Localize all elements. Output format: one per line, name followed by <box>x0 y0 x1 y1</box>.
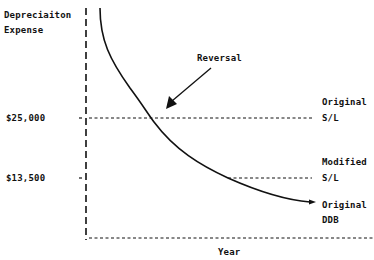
x-axis-label: Year <box>218 246 240 258</box>
original-sl-label-line2: S/L <box>322 112 339 124</box>
y-tick-label-13500: $13,500 <box>6 172 45 184</box>
modified-sl-label-line2: S/L <box>322 172 339 184</box>
original-ddb-label-line1: Original <box>322 199 367 211</box>
y-axis-label-line1: Depreciaiton <box>4 9 71 21</box>
y-tick-label-25000: $25,000 <box>6 112 45 124</box>
ddb-end-marker <box>309 200 316 205</box>
original-ddb-label-line2: DDB <box>322 214 339 226</box>
chart-canvas <box>0 0 374 260</box>
original-ddb-curve <box>100 8 310 202</box>
original-sl-label-line1: Original <box>322 96 367 108</box>
y-axis-label-line2: Expense <box>4 24 43 36</box>
modified-sl-label-line1: Modified <box>322 156 367 168</box>
reversal-arrow-shaft <box>172 68 211 101</box>
reversal-annotation: Reversal <box>197 52 242 64</box>
